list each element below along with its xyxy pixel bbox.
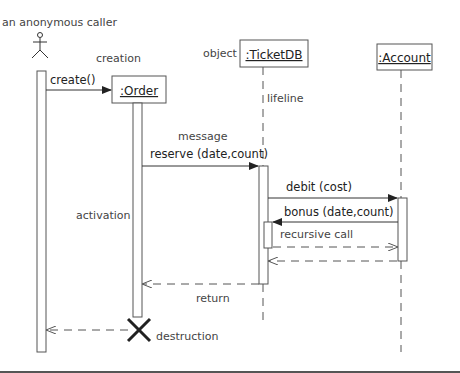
message-debit-label: debit (cost): [286, 180, 352, 194]
svg-text::Account: :Account: [378, 51, 431, 65]
actor-stick-figure-icon: [32, 33, 48, 59]
creation-annotation: creation: [96, 52, 141, 65]
actor-label: an anonymous caller: [2, 16, 117, 29]
destruction-annotation: destruction: [156, 330, 218, 343]
destruction-x-icon: [128, 319, 150, 341]
ticketdb-recursive-activation: [264, 222, 272, 248]
message-create-label: create(): [50, 73, 95, 87]
recursive-call-annotation: recursive call: [280, 228, 353, 241]
lifeline-annotation: lifeline: [267, 92, 304, 105]
message-annotation: message: [178, 130, 228, 143]
svg-text::Order: :Order: [120, 84, 158, 98]
caller-activation: [37, 71, 46, 352]
return-annotation: return: [196, 292, 230, 305]
message-reserve-label: reserve (date,count): [150, 147, 268, 161]
message-bonus-label: bonus (date,count): [284, 205, 394, 219]
account-activation: [398, 198, 407, 261]
object-account: :Account: [377, 44, 432, 70]
object-order: :Order: [112, 76, 166, 103]
svg-text::TicketDB: :TicketDB: [245, 48, 302, 62]
activation-annotation: activation: [76, 209, 131, 222]
object-ticketdb: :TicketDB: [240, 40, 308, 67]
order-activation: [133, 103, 142, 317]
object-annotation: object: [203, 47, 238, 60]
sequence-diagram: an anonymous caller creation object life…: [0, 0, 460, 373]
